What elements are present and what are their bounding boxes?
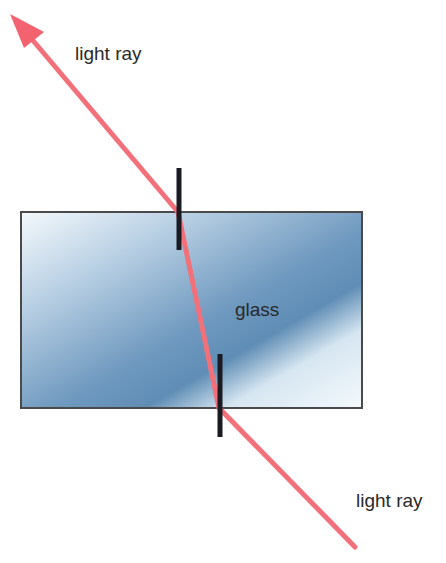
- diagram-graphics: [0, 0, 446, 563]
- outgoing-ray-label: light ray: [356, 490, 423, 512]
- arrowhead-icon: [10, 14, 44, 48]
- glass-label: glass: [235, 299, 279, 321]
- refraction-diagram: light ray glass light ray: [0, 0, 446, 563]
- incoming-ray-label: light ray: [75, 43, 142, 65]
- glass-block: [21, 212, 362, 408]
